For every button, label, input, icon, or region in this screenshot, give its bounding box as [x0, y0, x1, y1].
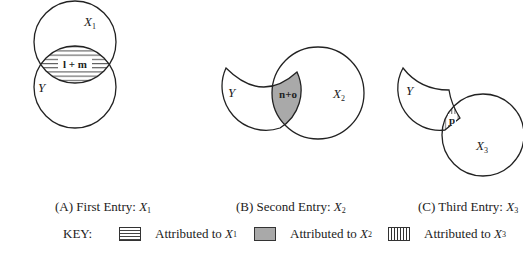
panel-a-diagram: l + m X1 Y [34, 1, 116, 128]
region-label-b: n+o [279, 88, 297, 100]
caption-c-sub: 3 [514, 206, 518, 215]
caption-b: (B) Second Entry: X2 [236, 199, 346, 215]
circle-x3 [442, 94, 523, 176]
caption-c-var: X [506, 199, 514, 214]
region-label-a: l + m [63, 58, 87, 70]
caption-b-sub: 2 [342, 206, 346, 215]
caption-a-sub: 1 [147, 206, 151, 215]
panel-b-diagram: n+o Y X2 [222, 47, 364, 139]
caption-c: (C) Third Entry: X3 [418, 199, 518, 215]
caption-b-var: X [334, 199, 342, 214]
caption-a-var: X [139, 199, 147, 214]
legend-item-sub: 1 [233, 230, 237, 239]
legend-item-x3: Attributed to X3 [388, 226, 506, 242]
label-x3: X3 [475, 138, 488, 155]
horizontal-hatch-swatch-icon [119, 227, 141, 241]
legend-item-text: Attributed to [424, 226, 491, 242]
label-y-b: Y [228, 85, 237, 100]
region-label-c: p [449, 114, 455, 126]
label-x2: X2 [332, 86, 345, 103]
caption-a: (A) First Entry: X1 [55, 199, 151, 215]
legend: KEY: Attributed to X1 Attributed to X2 A… [0, 226, 523, 248]
legend-item-sub: 3 [502, 230, 506, 239]
label-y-c: Y [406, 83, 415, 98]
legend-item-x2: Attributed to X2 [254, 226, 372, 242]
venn-diagrams: l + m X1 Y n+o Y X2 p Y X3 [0, 0, 523, 200]
legend-item-var: X [360, 226, 368, 242]
legend-label: KEY: [63, 226, 92, 242]
legend-item-text: Attributed to [155, 226, 222, 242]
caption-c-text: (C) Third Entry: [418, 199, 506, 214]
caption-a-text: (A) First Entry: [55, 199, 139, 214]
label-y-a: Y [38, 80, 47, 95]
legend-item-var: X [225, 226, 233, 242]
legend-item-x1: Attributed to X1 [119, 226, 237, 242]
gray-fill-swatch-icon [254, 227, 276, 241]
legend-item-var: X [494, 226, 502, 242]
vertical-hatch-swatch-icon [388, 227, 410, 241]
caption-b-text: (B) Second Entry: [236, 199, 334, 214]
legend-item-sub: 2 [368, 230, 372, 239]
legend-item-text: Attributed to [290, 226, 357, 242]
legend-title: KEY: [63, 226, 92, 242]
panel-c-diagram: p Y X3 [398, 68, 523, 176]
label-x1: X1 [83, 14, 96, 31]
